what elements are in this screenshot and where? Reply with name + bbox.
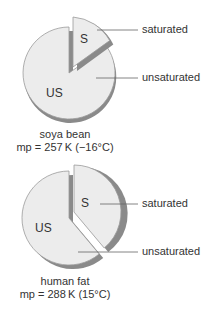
- top-legend-unsaturated: unsaturated: [142, 71, 200, 83]
- bottom-caption-title: human fat: [0, 275, 135, 288]
- top-us-label: US: [46, 86, 63, 100]
- bottom-legend-saturated: saturated: [142, 197, 188, 209]
- top-legend-saturated: saturated: [142, 23, 188, 35]
- top-caption: soya bean mp = 257 K (−16°C): [0, 128, 135, 154]
- bottom-caption-mp: mp = 288 K (15°C): [0, 288, 135, 301]
- bottom-caption: human fat mp = 288 K (15°C): [0, 275, 135, 301]
- human-fat-pie: [22, 165, 138, 269]
- top-caption-title: soya bean: [0, 128, 135, 141]
- pie-charts: [0, 0, 217, 311]
- bottom-s-label: S: [81, 196, 89, 210]
- bottom-us-label: US: [35, 221, 52, 235]
- top-caption-mp: mp = 257 K (−16°C): [0, 141, 135, 154]
- bottom-legend-unsaturated: unsaturated: [142, 245, 200, 257]
- top-s-label: S: [80, 32, 88, 46]
